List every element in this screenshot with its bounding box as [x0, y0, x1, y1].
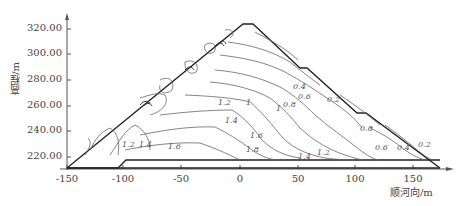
- y-tick-label: 220.00: [10, 150, 62, 161]
- contour-label: 1.6: [168, 142, 181, 151]
- contour-label: 1: [276, 104, 281, 113]
- contour-label: 1.8: [246, 145, 259, 154]
- x-tick-label: -50: [166, 173, 196, 184]
- x-tick-label: 0: [225, 173, 255, 184]
- contour-label: 0.8: [360, 124, 373, 133]
- x-tick-label: 50: [283, 173, 313, 184]
- contour-label: 1.2: [218, 98, 231, 107]
- x-tick-label: -100: [108, 173, 138, 184]
- contour-label: 0.6: [375, 143, 388, 152]
- contour-lines: [85, 30, 432, 160]
- y-axis: [65, 13, 71, 170]
- x-tick-label: -150: [52, 173, 82, 184]
- contour-label: 1.4: [139, 140, 152, 149]
- contour-label: 0.2: [418, 140, 431, 149]
- contour-label: 1.6: [250, 131, 263, 140]
- x-tick-label: 150: [398, 173, 428, 184]
- y-tick-label: 260.00: [10, 99, 62, 110]
- contour-label: 0.4: [397, 143, 410, 152]
- x-tick-label: 100: [340, 173, 370, 184]
- contour-label: 1.4: [225, 116, 238, 125]
- contour-label: 1: [246, 98, 251, 107]
- contour-label: 1.2: [122, 140, 135, 149]
- contour-label: 0.8: [283, 100, 296, 109]
- x-axis-title: 顺河向/m: [390, 184, 433, 199]
- y-tick-label: 320.00: [10, 22, 62, 33]
- contour-label: 1.2: [317, 148, 330, 157]
- y-tick-label: 240.00: [10, 124, 62, 135]
- contour-label: 0.4: [293, 82, 306, 91]
- y-tick-label: 300.00: [10, 47, 62, 58]
- contour-label: 0.6: [298, 92, 311, 101]
- contour-label: 1.4: [298, 152, 311, 161]
- contour-label: 0.2: [327, 95, 340, 104]
- y-axis-title: 高程/m: [8, 62, 23, 95]
